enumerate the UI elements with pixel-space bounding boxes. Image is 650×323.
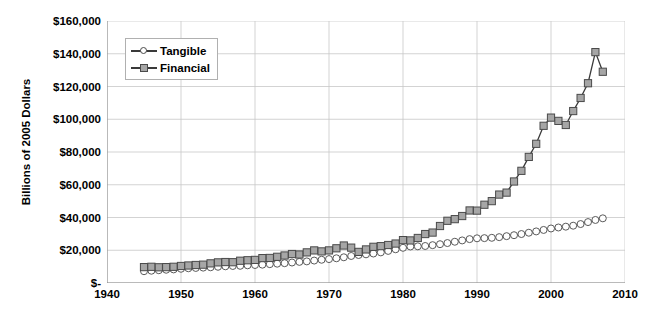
x-tick-label: 1960 xyxy=(225,288,285,300)
x-axis-tick-labels: 19401950196019701980199020002010 xyxy=(0,0,650,323)
x-tick-label: 1980 xyxy=(373,288,433,300)
x-tick-label: 1940 xyxy=(77,288,137,300)
legend-label-tangible: Tangible xyxy=(160,45,206,57)
x-tick-label: 1950 xyxy=(151,288,211,300)
open-circle-marker-icon xyxy=(131,44,157,57)
legend-item-financial: Financial xyxy=(131,59,210,76)
legend-item-tangible: Tangible xyxy=(131,42,210,59)
x-tick-label: 1990 xyxy=(447,288,507,300)
chart-legend: Tangible Financial xyxy=(125,38,218,80)
x-tick-label: 1970 xyxy=(299,288,359,300)
legend-label-financial: Financial xyxy=(160,62,210,74)
x-tick-label: 2010 xyxy=(595,288,650,300)
x-tick-label: 2000 xyxy=(521,288,581,300)
chart-figure: Billions of 2005 Dollars $-$20,000$40,00… xyxy=(0,0,650,323)
figure-caption-sliver xyxy=(8,313,428,323)
filled-square-marker-icon xyxy=(131,61,157,74)
